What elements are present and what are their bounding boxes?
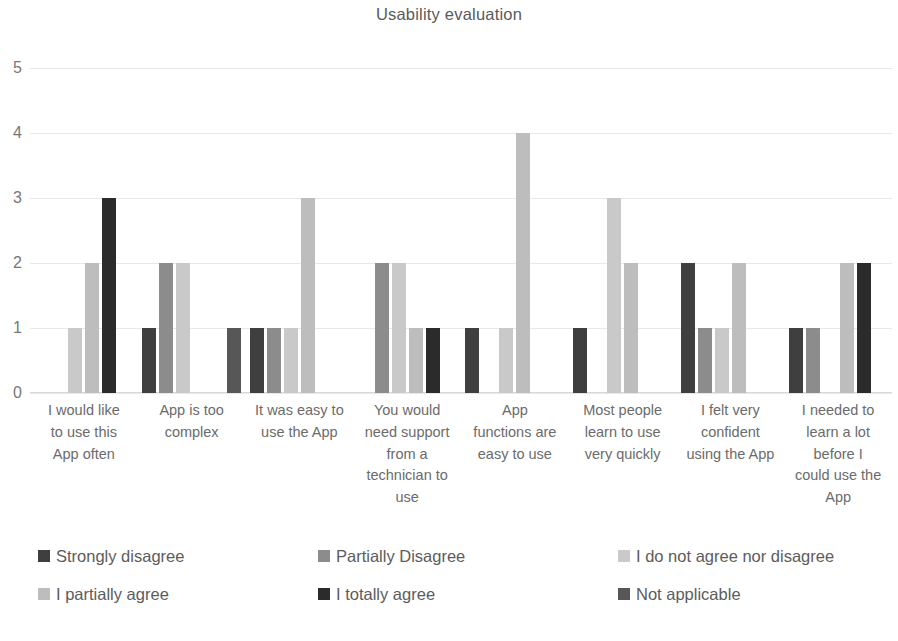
bar-slot bbox=[392, 68, 406, 393]
y-axis-tick-label: 1 bbox=[13, 320, 22, 336]
category-label-line: complex bbox=[138, 422, 246, 444]
bar-slot bbox=[465, 68, 479, 393]
bar-slot bbox=[426, 68, 440, 393]
category-label-line: App bbox=[461, 400, 569, 422]
bar[interactable] bbox=[789, 328, 803, 393]
bar[interactable] bbox=[624, 263, 638, 393]
bar-group bbox=[353, 68, 461, 393]
category-label-line: learn a lot bbox=[784, 422, 892, 444]
bar-slot bbox=[573, 68, 587, 393]
bar-slot bbox=[85, 68, 99, 393]
bar-slot bbox=[749, 68, 763, 393]
category-label-line: I would like bbox=[30, 400, 138, 422]
y-axis-tick-label: 3 bbox=[13, 190, 22, 206]
legend-swatch-icon bbox=[38, 588, 50, 600]
x-axis-category-label: I would liketo use thisApp often bbox=[30, 400, 138, 465]
bar[interactable] bbox=[840, 263, 854, 393]
bar-group bbox=[569, 68, 677, 393]
bar[interactable] bbox=[267, 328, 281, 393]
category-label-line: need support bbox=[353, 422, 461, 444]
bar[interactable] bbox=[227, 328, 241, 393]
legend-item[interactable]: I do not agree nor disagree bbox=[618, 548, 834, 565]
bar[interactable] bbox=[857, 263, 871, 393]
x-axis-category-label: I felt veryconfidentusing the App bbox=[677, 400, 785, 465]
legend-item[interactable]: I partially agree bbox=[38, 586, 169, 603]
category-label-line: easy to use bbox=[461, 444, 569, 466]
legend-item[interactable]: Strongly disagree bbox=[38, 548, 184, 565]
bar[interactable] bbox=[426, 328, 440, 393]
bar[interactable] bbox=[715, 328, 729, 393]
bar[interactable] bbox=[465, 328, 479, 393]
bar-slot bbox=[193, 68, 207, 393]
y-axis-tick-label: 5 bbox=[13, 60, 22, 76]
bar-slot bbox=[34, 68, 48, 393]
bar[interactable] bbox=[102, 198, 116, 393]
x-axis-category-label: Appfunctions areeasy to use bbox=[461, 400, 569, 465]
bar-slot bbox=[250, 68, 264, 393]
bar[interactable] bbox=[499, 328, 513, 393]
legend-item[interactable]: I totally agree bbox=[318, 586, 435, 603]
bar[interactable] bbox=[85, 263, 99, 393]
category-label-line: learn to use bbox=[569, 422, 677, 444]
bar-slot bbox=[102, 68, 116, 393]
legend-label: I partially agree bbox=[56, 586, 169, 603]
category-label-line: before I bbox=[784, 444, 892, 466]
y-axis-tick-labels: 012345 bbox=[0, 68, 26, 393]
bar-slot bbox=[301, 68, 315, 393]
bar[interactable] bbox=[176, 263, 190, 393]
x-axis-category-label: App is toocomplex bbox=[138, 400, 246, 444]
y-axis-tick-label: 2 bbox=[13, 255, 22, 271]
category-label-line: use bbox=[353, 487, 461, 509]
category-label-line: use the App bbox=[246, 422, 354, 444]
bar-slot bbox=[335, 68, 349, 393]
bar[interactable] bbox=[392, 263, 406, 393]
bar[interactable] bbox=[68, 328, 82, 393]
bar-slot bbox=[789, 68, 803, 393]
bar[interactable] bbox=[159, 263, 173, 393]
legend-label: I do not agree nor disagree bbox=[636, 548, 834, 565]
bar-slot bbox=[590, 68, 604, 393]
bar[interactable] bbox=[573, 328, 587, 393]
bar-slot bbox=[641, 68, 655, 393]
bar-slot bbox=[698, 68, 712, 393]
legend-item[interactable]: Partially Disagree bbox=[318, 548, 465, 565]
bar-slot bbox=[358, 68, 372, 393]
legend-item[interactable]: Not applicable bbox=[618, 586, 741, 603]
bar[interactable] bbox=[516, 133, 530, 393]
bar-slot bbox=[658, 68, 672, 393]
legend-label: I totally agree bbox=[336, 586, 435, 603]
bar[interactable] bbox=[284, 328, 298, 393]
y-axis-tick-label: 4 bbox=[13, 125, 22, 141]
category-label-line: confident bbox=[677, 422, 785, 444]
bar[interactable] bbox=[732, 263, 746, 393]
category-label-line: could use the bbox=[784, 465, 892, 487]
legend-swatch-icon bbox=[38, 550, 50, 562]
bar[interactable] bbox=[607, 198, 621, 393]
bar[interactable] bbox=[806, 328, 820, 393]
bar[interactable] bbox=[142, 328, 156, 393]
bar[interactable] bbox=[375, 263, 389, 393]
category-label-line: technician to bbox=[353, 465, 461, 487]
bar-slot bbox=[318, 68, 332, 393]
bar-group bbox=[784, 68, 892, 393]
bar[interactable] bbox=[681, 263, 695, 393]
x-axis-category-label: Most peoplelearn to usevery quickly bbox=[569, 400, 677, 465]
bar[interactable] bbox=[250, 328, 264, 393]
bar-slot bbox=[806, 68, 820, 393]
bar-slot bbox=[857, 68, 871, 393]
bar-slot bbox=[482, 68, 496, 393]
bar-slot bbox=[68, 68, 82, 393]
x-axis-category-labels: I would liketo use thisApp oftenApp is t… bbox=[30, 400, 892, 540]
legend-swatch-icon bbox=[318, 588, 330, 600]
bar-slot bbox=[550, 68, 564, 393]
bar-slot bbox=[681, 68, 695, 393]
y-axis-tick-label: 0 bbox=[13, 385, 22, 401]
bar-slot bbox=[375, 68, 389, 393]
bar[interactable] bbox=[409, 328, 423, 393]
bar[interactable] bbox=[301, 198, 315, 393]
category-label-line: I felt very bbox=[677, 400, 785, 422]
bar-slot bbox=[533, 68, 547, 393]
bar[interactable] bbox=[698, 328, 712, 393]
bar-slot bbox=[210, 68, 224, 393]
bar-slot bbox=[766, 68, 780, 393]
